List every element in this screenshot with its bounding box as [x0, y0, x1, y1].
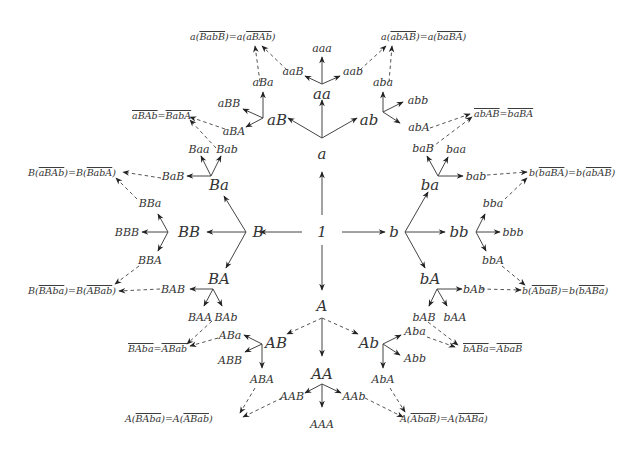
- node-BAb: BAb: [213, 311, 237, 324]
- eq-lower-right: bABa=AbaB: [463, 343, 522, 354]
- node-bAb: bAb: [463, 283, 485, 296]
- node-aaa: aaa: [312, 42, 332, 55]
- edge-a-ab: [322, 118, 357, 138]
- node-Baa: Baa: [187, 143, 209, 156]
- node-BBA: BBA: [137, 254, 162, 267]
- node-BBa: BBa: [138, 197, 162, 210]
- edge-ba-baB: [427, 156, 438, 176]
- edge-bb-bbA: [476, 232, 486, 251]
- eq-right-upper: b(baBA)=b(abAB): [529, 167, 615, 178]
- dash-AbA: [390, 388, 405, 412]
- eq-bottom-right: A(AbaB)=A(bABa): [399, 413, 488, 424]
- node-BAA: BAA: [187, 311, 212, 324]
- edge-B-Ba: [224, 196, 246, 232]
- edge-bA-bAB: [429, 289, 437, 306]
- node-A: A: [315, 297, 328, 315]
- edge-aB-aBA: [246, 118, 263, 127]
- node-bbA: bbA: [482, 254, 504, 267]
- edge-b-ba: [405, 192, 428, 232]
- edge-BA-BAA: [204, 289, 213, 306]
- dash-aBA: [190, 117, 225, 129]
- node-ab: ab: [360, 111, 379, 129]
- node-b: b: [389, 223, 399, 241]
- eq-top-right: a(abAB)=a(baBA): [381, 31, 467, 42]
- edge-AA-AAB: [305, 384, 322, 393]
- node-ba: ba: [421, 176, 440, 194]
- edge-A-AB: [287, 318, 322, 334]
- edge-Ba-Baa: [201, 156, 211, 176]
- node-aBA: aBA: [223, 125, 246, 138]
- dash-bbA: [502, 266, 525, 285]
- edge-Ba-Bab: [211, 156, 221, 176]
- node-AbA: AbA: [371, 373, 395, 386]
- node-abA: abA: [408, 121, 430, 134]
- node-baa: baa: [446, 143, 466, 156]
- edge-Ab-Aba: [383, 335, 401, 344]
- edge-B-BA: [226, 232, 246, 268]
- node-ABa: ABa: [218, 329, 242, 342]
- node-ABB: ABB: [217, 354, 242, 367]
- cayley-tree-diagram: 1 a b A B aa aB ab ba bb bA AA AB Ab Ba …: [0, 0, 642, 449]
- node-aBa: aBa: [252, 76, 273, 89]
- edge-Ab-Abb: [383, 344, 400, 355]
- dash-BBa: [116, 178, 137, 199]
- dash-BAb: [187, 321, 212, 344]
- edge-ab-abb: [383, 102, 403, 112]
- dash-AAb: [365, 398, 403, 417]
- edge-bb-bba: [476, 214, 485, 232]
- node-Ab: Ab: [357, 334, 379, 352]
- node-AA: AA: [309, 365, 333, 383]
- node-Aba: Aba: [403, 325, 426, 338]
- node-bAA: bAA: [444, 311, 467, 324]
- edge-BB-BBa: [158, 214, 168, 232]
- node-Abb: Abb: [403, 352, 426, 365]
- dash-bba: [505, 178, 527, 199]
- node-AAb: AAb: [342, 390, 366, 403]
- edge-BA-BAb: [213, 289, 222, 306]
- eq-left-upper: B(aBAb)=B(BabA): [27, 167, 116, 178]
- node-baB: baB: [412, 142, 434, 155]
- node-aba: aba: [373, 76, 393, 89]
- dash-Aba: [427, 337, 455, 347]
- node-aBB: aBB: [218, 97, 241, 110]
- dash-ABA: [240, 388, 255, 413]
- eq-right-lower: b(AbaB)=b(bABa): [522, 285, 608, 296]
- node-bba: bba: [483, 197, 504, 210]
- dash-bAB: [428, 322, 458, 345]
- edge-bA-bAA: [437, 289, 447, 306]
- node-AAA: AAA: [309, 418, 334, 431]
- node-bbb: bbb: [502, 226, 523, 239]
- edge-b-bA: [405, 232, 425, 268]
- node-root: 1: [317, 223, 327, 241]
- edge-AB-ABB: [245, 344, 262, 352]
- edge-AA-AAb: [322, 384, 341, 393]
- node-bb: bb: [449, 223, 468, 241]
- node-labels: 1 a b A B aa aB ab ba bb bA AA AB Ab Ba …: [114, 42, 524, 431]
- dash-BBA: [115, 266, 139, 284]
- node-AAB: AAB: [279, 390, 304, 403]
- node-aa: aa: [313, 85, 331, 103]
- eq-left-lower: B(BAba)=B(ABab): [27, 285, 116, 296]
- edge-aa-aab: [322, 76, 340, 84]
- node-AB: AB: [263, 334, 287, 352]
- node-Bab: Bab: [215, 143, 238, 156]
- edge-ab-abA: [383, 112, 400, 123]
- node-aB: aB: [267, 111, 287, 129]
- dash-bAb: [481, 289, 521, 290]
- node-aaB: aaB: [282, 65, 303, 78]
- edge-BB-BBA: [158, 232, 168, 251]
- node-BAB: BAB: [160, 283, 185, 296]
- node-BaB: BaB: [161, 170, 185, 183]
- eq-top-left: a(BabB)=a(aBAb): [190, 31, 276, 42]
- dash-bab: [487, 172, 527, 175]
- edge-aB-aBB: [243, 109, 263, 118]
- edge-AB-ABa: [244, 335, 262, 344]
- dash-abA: [430, 114, 470, 128]
- node-a: a: [318, 145, 327, 163]
- eq-bottom-left: A(BAba)=A(ABab): [124, 413, 213, 424]
- node-bAB: bAB: [412, 311, 435, 324]
- dash-BaB: [123, 172, 161, 178]
- node-BA: BA: [207, 270, 230, 288]
- node-Ba: Ba: [208, 176, 229, 194]
- node-bab: bab: [466, 170, 487, 183]
